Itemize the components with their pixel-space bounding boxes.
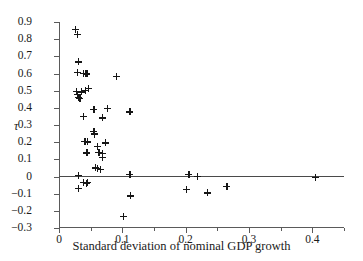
y-tick-mark: [54, 22, 59, 23]
y-tick-mark: [54, 91, 59, 92]
y-tick-label: 0.2: [0, 136, 32, 148]
y-tick-label: 0.1: [0, 154, 32, 166]
y-tick-label: 0.6: [0, 68, 32, 80]
data-point: [99, 154, 106, 161]
y-tick-mark: [54, 194, 59, 195]
data-point: [80, 113, 87, 120]
y-tick-mark: [54, 74, 59, 75]
y-tick-label: −0.3: [0, 222, 32, 234]
y-axis-line: [59, 22, 60, 228]
zero-reference-line: [59, 176, 344, 177]
data-point: [113, 73, 120, 80]
scatter-plot-figure: 0.90.80.70.60.50.40.30.20.10−0.1−0.2−0.3…: [0, 0, 363, 261]
data-point: [75, 58, 82, 65]
y-tick-mark: [54, 142, 59, 143]
data-point: [97, 166, 104, 173]
x-axis-line: [59, 227, 344, 228]
data-point: [104, 105, 111, 112]
data-point: [85, 85, 92, 92]
data-point: [126, 171, 133, 178]
data-point: [312, 174, 319, 181]
data-point: [84, 138, 91, 145]
y-tick-mark: [54, 39, 59, 40]
data-point: [75, 185, 82, 192]
y-tick-mark: [54, 211, 59, 212]
y-axis-title: τ: [14, 120, 18, 132]
data-point: [83, 149, 90, 156]
y-tick-label: 0.9: [0, 16, 32, 28]
data-point: [84, 179, 91, 186]
y-tick-label: −0.1: [0, 188, 32, 200]
data-point: [99, 114, 106, 121]
y-tick-label: 0.8: [0, 33, 32, 45]
y-tick-mark: [54, 56, 59, 57]
data-point: [183, 186, 190, 193]
y-tick-label: 0.5: [0, 85, 32, 97]
y-tick-label: 0: [0, 171, 32, 183]
data-point: [83, 70, 90, 77]
y-tick-label: −0.2: [0, 205, 32, 217]
data-point: [127, 192, 134, 199]
data-point: [185, 171, 192, 178]
data-point: [90, 106, 97, 113]
data-point: [126, 108, 133, 115]
data-point: [75, 172, 82, 179]
y-tick-mark: [54, 108, 59, 109]
data-point: [74, 31, 81, 38]
data-point: [194, 173, 201, 180]
x-tick-mark-minor: [217, 228, 218, 231]
data-point: [91, 131, 98, 138]
y-tick-mark: [54, 159, 59, 160]
data-point: [102, 139, 109, 146]
data-point: [223, 183, 230, 190]
x-tick-mark-minor: [154, 228, 155, 231]
plot-area: 0.90.80.70.60.50.40.30.20.10−0.1−0.2−0.3…: [59, 22, 344, 228]
y-tick-mark: [54, 177, 59, 178]
x-axis-title: Standard deviation of nominal GDP growth: [0, 240, 363, 253]
y-tick-label: 0.4: [0, 102, 32, 114]
y-tick-mark: [54, 125, 59, 126]
data-point: [120, 213, 127, 220]
x-tick-mark-minor: [91, 228, 92, 231]
x-tick-mark-minor: [281, 228, 282, 231]
data-point: [204, 189, 211, 196]
data-point: [76, 95, 83, 102]
y-tick-label: 0.7: [0, 51, 32, 63]
x-tick-mark-minor: [344, 228, 345, 231]
